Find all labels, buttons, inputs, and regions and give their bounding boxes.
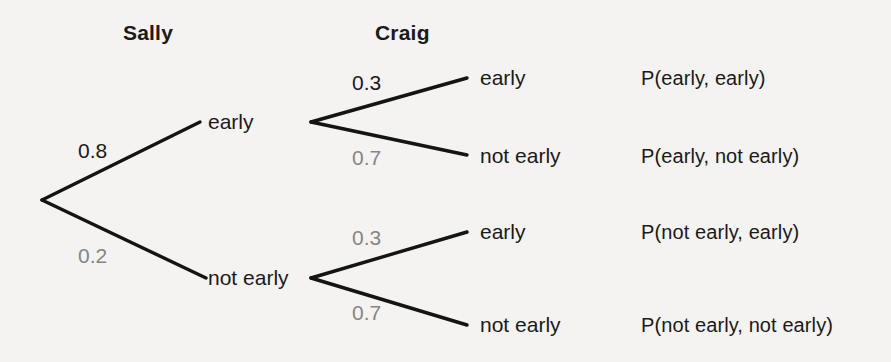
branch-craig-early-given-not-early: [311, 232, 467, 278]
stage-header-craig: Craig: [375, 22, 430, 43]
outcome-early-not-early: P(early, not early): [641, 146, 799, 166]
outcome-not-early-not-early: P(not early, not early): [641, 315, 833, 335]
node-sally-not-early: not early: [208, 267, 289, 288]
tree-branch-lines: [0, 0, 891, 362]
node-craig-not-early-2: not early: [480, 314, 561, 335]
outcome-early-early: P(early, early): [641, 68, 766, 88]
node-craig-early-2: early: [480, 221, 526, 242]
probability-tree-diagram: Sally Craig 0.8 0.2 0.3 0.7 0.3 0.7 earl…: [0, 0, 891, 362]
outcome-not-early-early: P(not early, early): [641, 222, 799, 242]
stage-header-sally: Sally: [123, 22, 173, 43]
prob-craig-early-given-not-early: 0.3: [352, 227, 381, 248]
branch-craig-not-early-given-not-early: [311, 278, 467, 325]
node-craig-not-early-1: not early: [480, 145, 561, 166]
node-sally-early: early: [208, 111, 254, 132]
branch-craig-early-given-early: [311, 78, 467, 122]
prob-craig-not-early-given-not-early: 0.7: [352, 302, 381, 323]
prob-craig-early-given-early: 0.3: [352, 72, 381, 93]
branch-sally-early: [42, 122, 200, 200]
branch-sally-not-early: [42, 200, 206, 278]
branch-craig-not-early-given-early: [311, 122, 467, 155]
prob-craig-not-early-given-early: 0.7: [352, 147, 381, 168]
prob-sally-not-early: 0.2: [78, 245, 107, 266]
node-craig-early-1: early: [480, 67, 526, 88]
prob-sally-early: 0.8: [78, 140, 107, 161]
